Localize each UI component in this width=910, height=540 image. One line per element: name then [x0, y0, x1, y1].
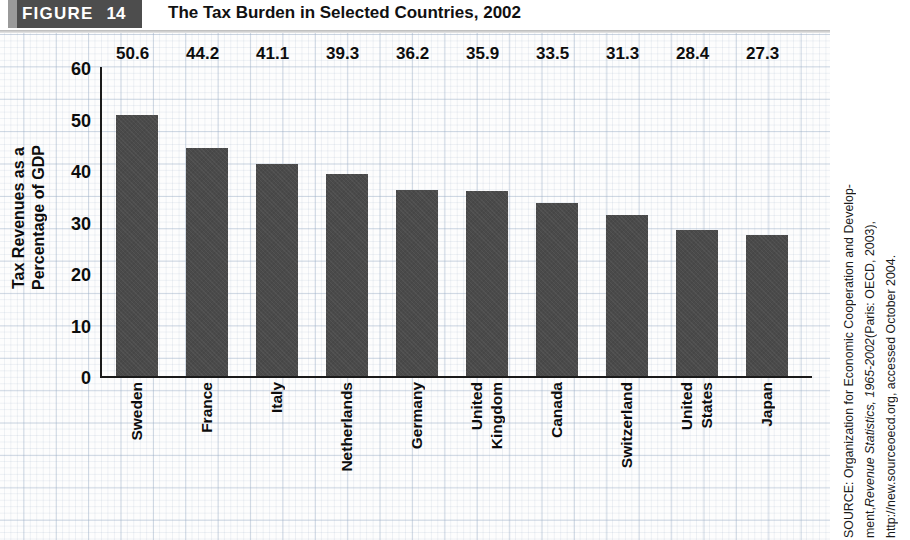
- bar[interactable]: 50.6: [116, 115, 158, 376]
- bar[interactable]: 27.3: [746, 235, 788, 376]
- bar-value-label: 39.3: [326, 44, 359, 64]
- bar[interactable]: 31.3: [606, 215, 648, 376]
- bar-value-label: 27.3: [746, 44, 779, 64]
- x-axis-label-canada: Canada: [522, 382, 592, 532]
- y-axis-tick-30: 30: [71, 213, 91, 234]
- y-axis-title-line-1: Tax Revenues as a: [8, 78, 30, 358]
- bar-slot: 33.5: [522, 67, 592, 376]
- x-axis-label-united-kingdom: UnitedKingdom: [452, 382, 522, 532]
- bar-value-label: 31.3: [606, 44, 639, 64]
- x-axis-label-united-states: UnitedStates: [662, 382, 732, 532]
- source-note-line-1: SOURCE: Organization for Economic Cooper…: [834, 8, 856, 538]
- bar-value-label: 50.6: [116, 44, 149, 64]
- bar[interactable]: 39.3: [326, 174, 368, 376]
- x-axis-label-line: United: [468, 382, 486, 430]
- source-line2-suffix: (Paris: OECD, 2003),: [863, 221, 877, 338]
- x-axis-label-line: France: [198, 382, 216, 433]
- bar-slot: 35.9: [452, 67, 522, 376]
- x-axis-label-italy: Italy: [242, 382, 312, 532]
- x-axis-label-line: Italy: [268, 382, 286, 413]
- bar-value-label: 41.1: [256, 44, 289, 64]
- x-axis-label-germany: Germany: [382, 382, 452, 532]
- bar-value-label: 35.9: [466, 44, 499, 64]
- source-note-line-3: http://new.sourceoecd.org, accessed Octo…: [876, 8, 898, 538]
- banner-left-edge: [8, 0, 17, 28]
- x-axis-label-france: France: [172, 382, 242, 532]
- source-line2-prefix: ment,: [863, 507, 877, 538]
- page-title: The Tax Burden in Selected Countries, 20…: [168, 3, 521, 23]
- header-divider: [0, 30, 830, 33]
- bar-slot: 41.1: [242, 67, 312, 376]
- source-line2-italic: Revenue Statistics, 1965-2002: [863, 338, 877, 507]
- bar-value-label: 44.2: [186, 44, 219, 64]
- x-axis-label-netherlands: Netherlands: [312, 382, 382, 532]
- x-axis-label-line: Kingdom: [488, 382, 506, 449]
- figure-number-label: 14: [106, 4, 125, 24]
- bar-slot: 50.6: [102, 67, 172, 376]
- y-axis-tick-40: 40: [71, 162, 91, 183]
- bar-slot: 28.4: [662, 67, 732, 376]
- bar[interactable]: 44.2: [186, 148, 228, 376]
- x-axis-line: [100, 376, 812, 378]
- y-axis-tick-10: 10: [71, 316, 91, 337]
- x-axis-label-line: Switzerland: [618, 382, 636, 468]
- y-axis-tick-60: 60: [71, 59, 91, 80]
- source-note: SOURCE: Organization for Economic Cooper…: [832, 0, 910, 540]
- x-axis-label-line: Canada: [548, 382, 566, 438]
- bar-slot: 27.3: [732, 67, 802, 376]
- x-axis-label-line: Japan: [758, 382, 776, 427]
- y-axis-title: Tax Revenues as a Percentage of GDP: [8, 78, 44, 358]
- bar[interactable]: 35.9: [466, 191, 508, 376]
- figure-word-label: FIGURE: [22, 4, 93, 24]
- bar[interactable]: 41.1: [256, 164, 298, 376]
- x-axis-label-line: States: [698, 382, 716, 429]
- source-note-line-2: ment, Revenue Statistics, 1965-2002 (Par…: [855, 8, 877, 538]
- bar-value-label: 28.4: [676, 44, 709, 64]
- x-axis-label-switzerland: Switzerland: [592, 382, 662, 532]
- figure-container: FIGURE 14 The Tax Burden in Selected Cou…: [0, 0, 910, 540]
- bar[interactable]: 36.2: [396, 190, 438, 376]
- bar[interactable]: 33.5: [536, 203, 578, 376]
- x-axis-label-sweden: Sweden: [102, 382, 172, 532]
- y-axis-tick-50: 50: [71, 110, 91, 131]
- y-axis-tick-20: 20: [71, 265, 91, 286]
- bar-series: 50.644.241.139.336.235.933.531.328.427.3: [102, 67, 802, 376]
- bar-slot: 36.2: [382, 67, 452, 376]
- plot-area: 6050403020100 50.644.241.139.336.235.933…: [100, 67, 812, 378]
- x-axis-label-line: United: [678, 382, 696, 430]
- bar[interactable]: 28.4: [676, 230, 718, 376]
- bar-slot: 39.3: [312, 67, 382, 376]
- x-axis-label-japan: Japan: [732, 382, 802, 532]
- bar-value-label: 36.2: [396, 44, 429, 64]
- x-axis-label-line: Netherlands: [338, 382, 356, 472]
- bar-slot: 44.2: [172, 67, 242, 376]
- x-axis-label-line: Sweden: [128, 382, 146, 441]
- bar-slot: 31.3: [592, 67, 662, 376]
- y-axis-tick-0: 0: [81, 368, 91, 389]
- y-axis-title-line-2: Percentage of GDP: [28, 78, 50, 358]
- figure-header: FIGURE 14 The Tax Burden in Selected Cou…: [0, 0, 830, 30]
- x-axis-label-line: Germany: [408, 382, 426, 449]
- figure-number-banner: FIGURE 14: [8, 0, 142, 28]
- x-axis-category-labels: SwedenFranceItalyNetherlandsGermanyUnite…: [102, 382, 802, 532]
- bar-value-label: 33.5: [536, 44, 569, 64]
